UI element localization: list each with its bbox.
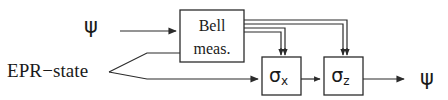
teleportation-diagram: ψ EPR−state Bell meas. σx σz ψ: [0, 0, 448, 100]
sigma-x-symbol: σ: [269, 64, 281, 86]
epr-state-label: EPR−state: [7, 61, 88, 80]
sigma-x-subscript: x: [281, 74, 288, 88]
sigma-x-label: σx: [262, 66, 295, 85]
bell-box-line-1: Bell: [180, 18, 244, 34]
sigma-z-symbol: σ: [331, 64, 343, 86]
input-psi-label: ψ: [84, 16, 98, 37]
sigma-z-label: σz: [324, 66, 357, 85]
bell-to-sigma-x-wire-b: [244, 32, 281, 51]
epr-upper-branch: [109, 53, 180, 72]
bell-box-line-2: meas.: [180, 41, 244, 57]
output-psi-label: ψ: [420, 68, 434, 89]
bell-to-sigma-z-wire-a: [244, 20, 347, 51]
sigma-z-subscript: z: [343, 74, 349, 88]
epr-lower-branch: [109, 72, 258, 79]
